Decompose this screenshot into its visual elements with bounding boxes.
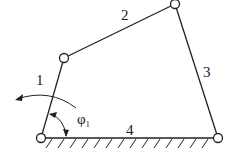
rotation-arrowhead-icon (15, 94, 23, 101)
joint-d (214, 134, 223, 143)
joint-b (60, 54, 69, 63)
link-2-coupler (64, 4, 175, 58)
ground-hatching (46, 139, 208, 148)
label-angle-phi: φ1 (77, 111, 90, 129)
joint-a (37, 134, 46, 143)
joint-c (171, 0, 180, 9)
link-1-crank (41, 58, 64, 138)
label-link-3: 3 (203, 64, 211, 80)
four-bar-linkage-diagram: 1 2 3 4 φ1 (0, 0, 231, 158)
label-link-2: 2 (121, 7, 129, 23)
rotation-arrow (17, 95, 76, 108)
angle-arc (50, 114, 66, 136)
angle-arrowhead-icon (63, 129, 69, 137)
link-3-rocker (175, 4, 218, 138)
label-link-1: 1 (36, 72, 44, 88)
label-link-4: 4 (126, 122, 134, 138)
